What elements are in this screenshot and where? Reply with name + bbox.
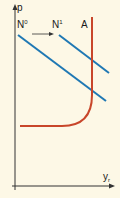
n0-label: N0 [17,20,28,30]
shift-arrow-icon [49,32,54,36]
n1-label: N1 [52,20,63,30]
curve-n1 [59,35,109,73]
n1-label-sup: 1 [59,19,62,25]
supply-demand-diagram: p N0 N1 A yr [0,0,120,198]
y-axis-label: p [17,3,23,13]
x-axis-arrow-icon [109,184,115,189]
n0-label-sup: 0 [24,19,27,25]
a-label: A [81,20,88,30]
x-axis-label: yr [103,172,110,182]
x-axis-label-sub: r [108,177,110,183]
curve-a [20,17,92,126]
